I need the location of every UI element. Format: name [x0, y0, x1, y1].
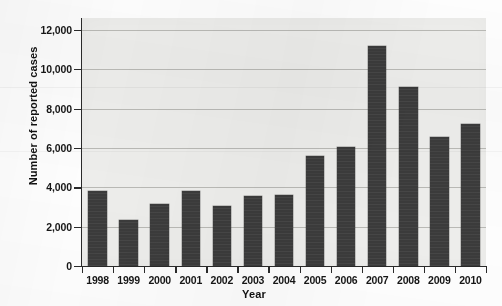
y-axis-tick-label-wrap: 10,000	[8, 63, 72, 75]
y-axis-tick	[74, 187, 82, 188]
x-axis-title: Year	[0, 288, 502, 300]
y-axis-tick	[74, 148, 82, 149]
y-axis-tick	[74, 109, 82, 110]
x-axis-tick	[206, 266, 207, 273]
bar	[244, 196, 263, 266]
x-axis-tick	[237, 266, 238, 273]
y-axis-tick-label-wrap: 2,000	[8, 221, 72, 233]
x-axis-tick	[268, 266, 269, 273]
bar	[150, 204, 169, 266]
y-axis-tick	[74, 227, 82, 228]
gridline	[82, 69, 486, 70]
gridline	[82, 30, 486, 31]
bar	[275, 195, 294, 266]
gridline	[82, 109, 486, 110]
y-axis-tick-label: 0	[16, 260, 72, 272]
y-axis-tick	[74, 69, 82, 70]
x-axis-tick	[362, 266, 363, 273]
y-axis-title: Number of reported cases	[27, 16, 39, 216]
bar	[182, 191, 201, 266]
bar	[213, 206, 232, 266]
y-axis-tick-label-wrap: 12,000	[8, 24, 72, 36]
bar-chart: 02,0004,0006,0008,00010,00012,000 199819…	[0, 0, 502, 306]
y-axis-tick-label: 4,000	[16, 181, 72, 193]
x-axis-tick	[393, 266, 394, 273]
y-axis-tick-label: 8,000	[16, 103, 72, 115]
bar	[461, 124, 480, 266]
y-axis-tick-label-wrap: 0	[8, 260, 72, 272]
y-axis-tick-label: 10,000	[16, 63, 72, 75]
y-axis-tick-label-wrap: 8,000	[8, 103, 72, 115]
gridline	[82, 187, 486, 188]
bar	[119, 220, 138, 266]
bar	[306, 156, 325, 266]
y-axis-tick-label: 6,000	[16, 142, 72, 154]
y-axis-line	[81, 18, 82, 267]
y-axis-tick-label: 12,000	[16, 24, 72, 36]
x-axis-title-text: Year	[242, 288, 266, 300]
x-axis-tick	[175, 266, 176, 273]
y-axis-tick	[74, 30, 82, 31]
y-axis-tick-label: 2,000	[16, 221, 72, 233]
bar	[337, 147, 356, 266]
gridline	[82, 148, 486, 149]
x-axis-tick	[331, 266, 332, 273]
x-axis-tick-label: 2010	[450, 274, 490, 286]
x-axis-tick	[486, 266, 487, 273]
bar	[368, 46, 387, 266]
y-axis-tick-label-wrap: 6,000	[8, 142, 72, 154]
x-axis-tick	[300, 266, 301, 273]
bar	[430, 137, 449, 266]
x-axis-tick	[424, 266, 425, 273]
y-axis-tick	[74, 266, 82, 267]
x-axis-tick	[455, 266, 456, 273]
bar	[399, 87, 418, 266]
x-axis-tick	[144, 266, 145, 273]
x-axis-tick	[113, 266, 114, 273]
y-axis-tick-label-wrap: 4,000	[8, 181, 72, 193]
x-axis-tick	[82, 266, 83, 273]
bar	[88, 191, 107, 266]
